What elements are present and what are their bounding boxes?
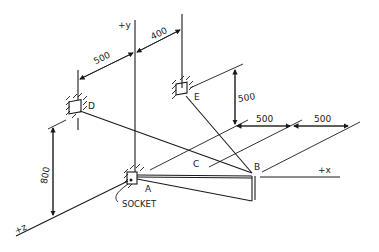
- point-c-label: C: [193, 159, 199, 169]
- dimension-d-height: [48, 120, 66, 215]
- dim-500-x-second: 500: [314, 114, 331, 124]
- extension-line-2: [209, 120, 302, 167]
- dim-500-x-first: 500: [256, 114, 273, 124]
- z-axis: [16, 181, 128, 236]
- x-axis-label: +x: [318, 165, 332, 175]
- dim-500-e-height: 500: [237, 91, 256, 104]
- dim-800-d-height: 800: [39, 166, 52, 185]
- extension-line-3: [262, 122, 360, 172]
- diagram-canvas: +y 500 400 D E: [0, 0, 379, 252]
- cable-d-to-b: [80, 111, 252, 173]
- dim-400-y-e: 400: [149, 25, 169, 42]
- socket-label: SOCKET: [122, 199, 157, 209]
- point-e-label: E: [194, 92, 200, 102]
- beam-ab: [137, 175, 255, 201]
- point-a-label: A: [145, 184, 152, 194]
- dim-500-d-y: 500: [92, 50, 112, 67]
- point-d-label: D: [88, 101, 95, 111]
- z-axis-label: +z: [13, 222, 29, 236]
- y-axis-label: +y: [118, 20, 132, 30]
- support-d: [66, 93, 87, 118]
- point-b-label: B: [254, 162, 260, 172]
